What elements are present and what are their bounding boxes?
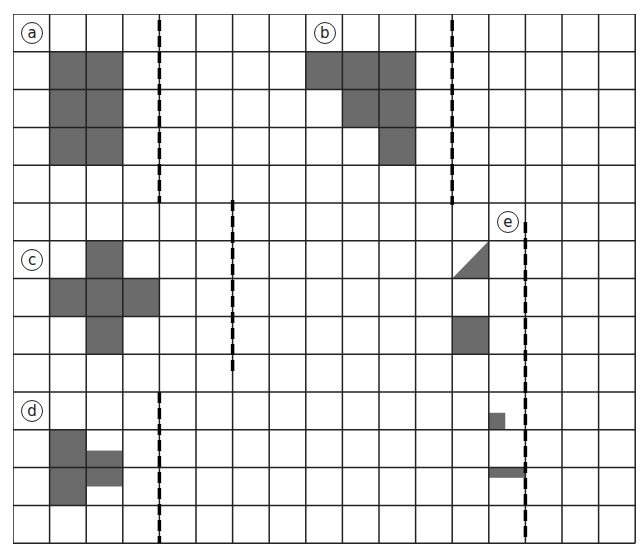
shaded-shape-e — [489, 413, 505, 430]
figure-label-e: e — [497, 211, 519, 233]
shaded-shape-c — [50, 279, 160, 317]
figure-label-c: c — [21, 249, 43, 271]
figure-label-d: d — [21, 400, 43, 422]
shaded-triangle-e — [452, 241, 489, 279]
shaded-shape-e — [489, 468, 526, 478]
shaded-shape-b — [379, 127, 416, 165]
shaded-shape-b — [306, 52, 416, 90]
figure-label-b: b — [314, 22, 336, 44]
shaded-shape-e — [452, 316, 489, 354]
grid-diagram — [13, 14, 638, 546]
figure-label-a: a — [21, 22, 43, 44]
shaded-shape-d — [86, 451, 123, 487]
